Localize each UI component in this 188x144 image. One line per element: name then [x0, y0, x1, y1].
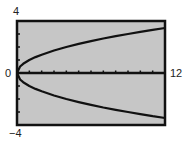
- ymax-label: 4: [13, 6, 19, 17]
- graph-window: [0, 0, 188, 144]
- xmax-label: 12: [170, 68, 182, 79]
- ymin-label: −4: [9, 128, 22, 139]
- xmin-label: 0: [5, 68, 11, 79]
